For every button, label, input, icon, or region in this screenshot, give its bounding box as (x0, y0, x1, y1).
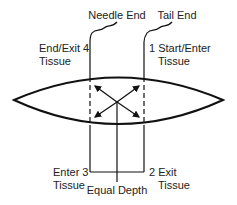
needle-end-thread (90, 22, 117, 77)
enter-3-label: Enter 3 (53, 166, 88, 178)
tail-end-label: Tail End (157, 9, 196, 21)
arrow-to-upper-left (95, 86, 117, 102)
start-enter-1-label: 1 Start/Enter (149, 42, 211, 54)
arrow-to-lower-right (117, 102, 139, 117)
suture-diagram: Needle End Tail End End/Exit 4 Tissue 1 … (0, 0, 237, 205)
end-exit-4-tissue-label: Tissue (39, 55, 71, 67)
arrow-to-upper-right (117, 86, 139, 102)
needle-end-label: Needle End (88, 9, 146, 21)
enter-3-tissue-label: Tissue (53, 179, 85, 191)
arrow-to-lower-left (95, 102, 117, 117)
exit-2-tissue-label: Tissue (158, 179, 190, 191)
equal-depth-label: Equal Depth (87, 184, 148, 196)
start-enter-1-tissue-label: Tissue (158, 55, 190, 67)
exit-2-label: 2 Exit (149, 166, 177, 178)
end-exit-4-label: End/Exit 4 (39, 42, 89, 54)
